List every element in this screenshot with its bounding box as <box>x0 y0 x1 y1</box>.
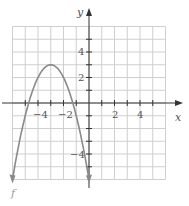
graph-canvas <box>0 0 189 206</box>
x-tick-label: 2 <box>112 110 118 120</box>
x-axis-label: x <box>175 112 181 123</box>
x-tick-label: 4 <box>137 110 143 120</box>
y-tick-label: −4 <box>70 150 85 160</box>
x-tick-label: −2 <box>58 110 73 120</box>
y-tick-label: 2 <box>78 73 84 83</box>
y-tick-label: 4 <box>78 47 84 57</box>
function-label: f <box>11 188 15 199</box>
axes <box>2 8 183 188</box>
y-axis-label: y <box>77 7 83 18</box>
x-tick-label: −4 <box>33 110 48 120</box>
